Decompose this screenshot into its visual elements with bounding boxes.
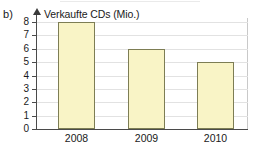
y-axis-arrow-icon [33,8,41,15]
bar [197,62,234,129]
y-axis-tick-label: 8 [7,17,29,27]
x-axis-line [36,129,248,130]
y-axis-tick-label: 3 [7,84,29,94]
bar [58,22,95,129]
chart-screenshot: b) Verkaufte CDs (Mio.) 012345678 200820… [0,0,261,147]
y-axis-tick-label: 1 [7,111,29,121]
y-axis-tick-label: 2 [7,97,29,107]
y-axis-tick-label: 7 [7,30,29,40]
x-axis-tick-label: 2009 [114,132,179,144]
y-axis-line [36,14,37,130]
plot-area: 012345678 200820092010 [0,0,261,147]
y-axis-tick-label: 4 [7,71,29,81]
y-axis-tick-label: 0 [7,124,29,134]
y-axis-tick-label: 5 [7,57,29,67]
x-axis-tick-label: 2010 [183,132,248,144]
x-axis-tick-label: 2008 [44,132,109,144]
bar [128,49,165,129]
y-axis-tick-label: 6 [7,44,29,54]
